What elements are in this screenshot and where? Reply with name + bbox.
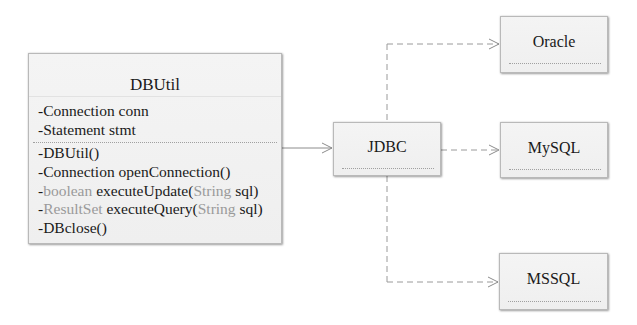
class-name: MySQL	[501, 139, 607, 157]
operation-row: -DBclose()	[38, 219, 263, 238]
association-dbutil-jdbc	[282, 143, 332, 153]
return-type: ResultSet	[43, 200, 102, 217]
compartment-divider	[342, 168, 434, 169]
class-dbutil[interactable]: DBUtil -Connection conn -Statement stmt …	[28, 53, 282, 244]
compartment-divider	[509, 169, 601, 170]
attribute-row: -Connection conn	[38, 102, 149, 121]
class-jdbc[interactable]: JDBC	[333, 122, 441, 176]
class-name: MSSQL	[500, 270, 607, 288]
operation-row: -DBUtil()	[38, 144, 263, 163]
compartment-divider	[508, 301, 601, 302]
class-name: DBUtil	[29, 75, 281, 95]
dependency-arrowheads	[488, 39, 499, 287]
class-name: JDBC	[334, 138, 440, 156]
class-name: Oracle	[501, 33, 607, 51]
return-type: boolean	[43, 182, 92, 199]
class-mssql[interactable]: MSSQL	[499, 253, 608, 310]
param-type: String	[193, 182, 231, 199]
operations-compartment: -DBUtil() -Connection openConnection() -…	[38, 144, 263, 238]
param-type: String	[198, 200, 236, 217]
operation-row: -boolean executeUpdate(String sql)	[38, 182, 263, 201]
header-divider	[29, 96, 281, 97]
compartment-divider	[33, 142, 277, 143]
attributes-compartment: -Connection conn -Statement stmt	[38, 102, 149, 139]
attribute-row: -Statement stmt	[38, 121, 149, 140]
operation-row: -Connection openConnection()	[38, 163, 263, 182]
operation-row: -ResultSet executeQuery(String sql)	[38, 200, 263, 219]
class-oracle[interactable]: Oracle	[500, 16, 608, 73]
compartment-divider	[509, 63, 601, 64]
class-mysql[interactable]: MySQL	[500, 122, 608, 178]
